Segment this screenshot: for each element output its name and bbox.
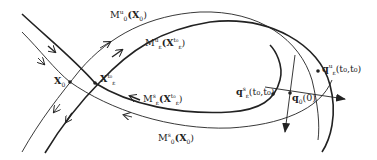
label-m-s-0: Ms0(X0) [158,132,194,145]
label-m-u-eps: Muε(Xt₀ε) [145,37,185,50]
manifold-diagram: Mu0(X0) Muε(Xt₀ε) X0 Xt₀ε Msε(Xt₀ε) Ms0(… [0,0,377,160]
point-x0 [68,80,72,84]
point-q-u [316,69,320,73]
label-q0: q0(0) [292,93,316,105]
label-m-s-eps: Msε(Xt₀ε) [143,93,182,106]
point-x-eps [93,81,97,85]
label-m-u-0: Mu0(X0) [110,9,147,22]
label-q-u: quε(t₀,t₀) [322,63,361,76]
label-q-s: qsε(t₀,t₀) [236,86,275,99]
label-x-eps: Xt₀ε [100,73,115,86]
label-x0: X0 [54,76,65,88]
